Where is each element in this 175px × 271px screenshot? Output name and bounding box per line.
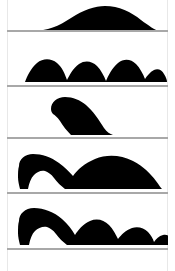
silhouette-single-smooth-hump — [7, 2, 168, 31]
baseline-divider-1 — [7, 30, 168, 32]
panel-head-and-neck — [7, 87, 168, 135]
baseline-divider-5 — [7, 248, 168, 250]
silhouette-head-and-large-body-hump — [7, 139, 168, 190]
silhouette-four-descending-humps — [7, 32, 168, 83]
baseline-divider-4 — [7, 192, 168, 194]
panel-four-descending-humps — [7, 32, 168, 83]
silhouette-figure: Loch Ness Monster sighting silhouettes S… — [0, 0, 175, 271]
panel-label-1: Single broad smooth hump — [0, 0, 1, 1]
panel-single-smooth-hump — [7, 2, 168, 31]
panel-head-and-large-body-hump — [7, 139, 168, 190]
baseline-divider-2 — [7, 85, 168, 87]
panel-label-4: Head, neck and one large body hump — [0, 0, 1, 1]
panel-label-2: Four humps in a row — [0, 0, 1, 1]
silhouette-head-and-multiple-small-humps — [7, 194, 168, 246]
figure-title: Loch Ness Monster sighting silhouettes — [0, 0, 1, 1]
panel-label-5: Head, neck and several small humps — [0, 0, 1, 1]
panel-head-and-multiple-small-humps — [7, 194, 168, 246]
baseline-divider-3 — [7, 137, 168, 139]
panel-label-3: Head and neck only — [0, 0, 1, 1]
silhouette-head-and-neck — [7, 87, 168, 135]
